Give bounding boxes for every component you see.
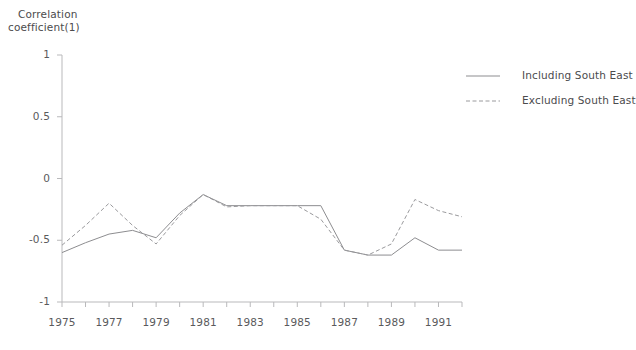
x-axis-tick-label: 1987 <box>324 316 364 328</box>
series-line-1 <box>62 195 462 256</box>
y-axis-tick-label: 0 <box>10 172 50 184</box>
y-axis-tick-label: 0.5 <box>10 110 50 122</box>
x-axis-tick-label: 1975 <box>42 316 82 328</box>
series-line-2 <box>62 195 462 256</box>
x-axis-tick-label: 1983 <box>230 316 270 328</box>
y-axis-tick-label: -1 <box>10 295 50 307</box>
x-axis-tick-label: 1991 <box>418 316 458 328</box>
y-axis-tick-label: 1 <box>10 48 50 60</box>
x-axis-tick-label: 1985 <box>277 316 317 328</box>
x-axis-tick-label: 1977 <box>89 316 129 328</box>
x-axis-tick-label: 1981 <box>183 316 223 328</box>
legend-label-1: Including South East <box>522 69 633 81</box>
x-axis-tick-label: 1979 <box>136 316 176 328</box>
x-axis-tick-label: 1989 <box>371 316 411 328</box>
legend-label-2: Excluding South East <box>522 94 636 106</box>
y-axis-title-line1: Correlation <box>18 8 78 21</box>
y-axis-title-line2: coefficient(1) <box>8 21 80 34</box>
y-axis-tick-label: -0.5 <box>10 233 50 245</box>
